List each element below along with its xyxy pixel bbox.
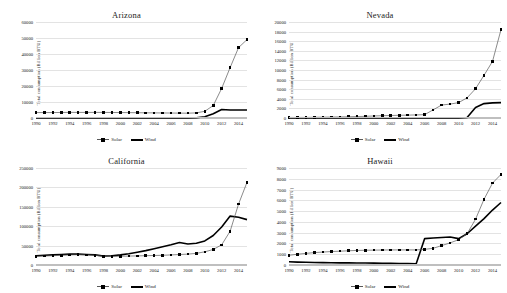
solar-data-point — [77, 111, 80, 114]
x-tick-label: 2000 — [116, 121, 125, 126]
chart-panel-hawaii: Hawaii Total consumption (Billion BTU) 0… — [253, 146, 507, 293]
solar-data-point — [406, 249, 409, 252]
x-tick-label: 2008 — [183, 121, 192, 126]
x-tick-label: 2000 — [116, 268, 125, 273]
x-tick-label: 1992 — [301, 121, 310, 126]
y-gridline — [289, 265, 501, 266]
solar-data-point — [457, 238, 460, 241]
solar-data-point — [237, 46, 240, 49]
solar-data-point — [246, 181, 249, 184]
y-tick-label: 0 — [284, 116, 286, 121]
x-tick-label: 1998 — [352, 268, 361, 273]
x-tick-label: 1994 — [318, 121, 327, 126]
solar-data-point — [187, 112, 190, 115]
y-tick-label: 10000 — [22, 100, 33, 105]
x-tick-label: 2012 — [471, 268, 480, 273]
solar-data-point — [195, 112, 198, 115]
chart-panel-nevada: Nevada Total consumption (Billion BTU) 0… — [253, 0, 507, 146]
solar-data-point — [347, 249, 350, 252]
y-tick-label: 8000 — [277, 77, 286, 82]
plot-area-hawaii: 0100020003000400050006000700080009000199… — [289, 168, 501, 265]
x-tick-label: 1996 — [82, 121, 91, 126]
series-layer — [36, 22, 247, 118]
y-tick-label: 20000 — [22, 84, 33, 89]
solar-data-point — [204, 251, 207, 254]
legend-item-wind[interactable]: Wind — [131, 284, 156, 289]
legend-label-wind: Wind — [145, 137, 156, 142]
solar-marker-icon — [97, 284, 109, 289]
solar-data-point — [43, 111, 46, 114]
solar-line — [289, 30, 501, 118]
y-tick-label: 40000 — [22, 52, 33, 57]
x-tick-label: 1996 — [335, 268, 344, 273]
solar-marker-icon — [351, 137, 363, 142]
x-tick-label: 2004 — [150, 121, 159, 126]
solar-data-point — [322, 251, 325, 254]
x-tick-label: 2000 — [369, 268, 378, 273]
solar-data-point — [35, 255, 38, 258]
solar-data-point — [85, 111, 88, 114]
series-layer — [36, 168, 247, 265]
solar-data-point — [423, 248, 426, 251]
solar-data-point — [381, 249, 384, 252]
x-tick-label: 1994 — [318, 268, 327, 273]
solar-data-point — [432, 247, 435, 250]
y-tick-label: 5000 — [277, 209, 286, 214]
x-tick-label: 2006 — [166, 121, 175, 126]
x-tick-label: 1992 — [301, 268, 310, 273]
wind-line-icon — [131, 286, 143, 288]
solar-line — [289, 174, 501, 255]
y-tick-label: 250000 — [19, 166, 33, 171]
solar-data-point — [449, 103, 452, 106]
y-tick-label: 30000 — [22, 68, 33, 73]
y-tick-label: 50000 — [22, 36, 33, 41]
solar-data-point — [296, 253, 299, 256]
solar-data-point — [212, 104, 215, 107]
x-tick-label: 2004 — [150, 268, 159, 273]
y-tick-label: 6000 — [277, 198, 286, 203]
solar-data-point — [94, 111, 97, 114]
wind-line — [289, 202, 501, 263]
legend-item-wind[interactable]: Wind — [131, 137, 156, 142]
solar-data-point — [415, 249, 418, 252]
solar-data-point — [212, 248, 215, 251]
legend-label-solar: Solar — [365, 137, 376, 142]
solar-data-point — [68, 111, 71, 114]
y-tick-label: 4000 — [277, 219, 286, 224]
solar-data-point — [161, 254, 164, 257]
solar-data-point — [136, 255, 139, 258]
x-axis-line — [36, 264, 247, 265]
y-tick-label: 3000 — [277, 230, 286, 235]
x-tick-label: 2002 — [386, 121, 395, 126]
solar-marker-icon — [351, 284, 363, 289]
solar-data-point — [500, 173, 503, 176]
legend-item-wind[interactable]: Wind — [384, 284, 409, 289]
legend-item-solar[interactable]: Solar — [97, 284, 122, 289]
y-tick-label: 2000 — [277, 106, 286, 111]
legend-item-solar[interactable]: Solar — [351, 284, 376, 289]
x-tick-label: 2014 — [234, 268, 243, 273]
solar-data-point — [119, 255, 122, 258]
x-tick-label: 2010 — [200, 268, 209, 273]
legend-item-solar[interactable]: Solar — [97, 137, 122, 142]
x-tick-label: 2014 — [234, 121, 243, 126]
legend-label-wind: Wind — [398, 137, 409, 142]
solar-data-point — [449, 242, 452, 245]
legend-item-wind[interactable]: Wind — [384, 137, 409, 142]
solar-data-point — [178, 253, 181, 256]
solar-line — [36, 182, 247, 256]
solar-data-point — [94, 254, 97, 257]
plot-area-arizona: 0100002000030000400005000060000199019921… — [36, 22, 247, 118]
legend-item-solar[interactable]: Solar — [351, 137, 376, 142]
y-tick-label: 0 — [31, 263, 33, 268]
plot-inner-nevada: 0200040006000800010000120001400016000180… — [289, 22, 501, 118]
solar-data-point — [246, 38, 249, 41]
solar-data-point — [170, 112, 173, 115]
x-tick-label: 2010 — [454, 121, 463, 126]
legend-label-wind: Wind — [145, 284, 156, 289]
x-tick-label: 1994 — [65, 121, 74, 126]
solar-marker-icon — [97, 137, 109, 142]
y-tick-label: 20000 — [275, 20, 286, 25]
solar-data-point — [466, 232, 469, 235]
solar-data-point — [432, 109, 435, 112]
